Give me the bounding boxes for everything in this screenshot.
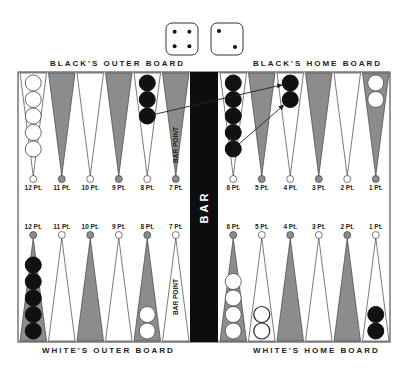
point-tip-marker	[172, 176, 179, 183]
white-checker	[254, 307, 270, 323]
point-tip-marker	[344, 176, 351, 183]
die-pip	[173, 30, 177, 34]
white-checker	[25, 92, 41, 108]
point-tip-marker	[287, 232, 294, 239]
point-label: 1 Pt.	[369, 184, 383, 191]
die-2	[211, 23, 243, 55]
point-tip-marker	[115, 232, 122, 239]
point-tip-marker	[344, 232, 351, 239]
die-pip	[187, 44, 191, 48]
point-tip-marker	[258, 176, 265, 183]
black-checker	[139, 75, 155, 91]
point-tip-marker	[230, 176, 237, 183]
white-checker	[368, 75, 384, 91]
point-tip-marker	[258, 232, 265, 239]
point-label: 7 Pt.	[169, 184, 183, 191]
point-tip-marker	[87, 232, 94, 239]
black-checker	[225, 75, 241, 91]
point-tip-marker	[144, 232, 151, 239]
point-label: 10 Pt.	[82, 223, 100, 230]
point-tip-marker	[144, 176, 151, 183]
point-label: 11 Pt.	[53, 184, 70, 191]
point-label: 9 Pt.	[112, 184, 126, 191]
point-tip-marker	[87, 176, 94, 183]
black-checker	[225, 125, 241, 141]
white-checker	[225, 323, 241, 339]
black-checker	[368, 307, 384, 323]
black-outer-board-label: BLACK'S OUTER BOARD	[50, 59, 185, 68]
black-checker	[25, 290, 41, 306]
point-tip-marker	[58, 176, 65, 183]
point-label: 12 Pt.	[25, 223, 43, 230]
black-checker	[139, 92, 155, 108]
point-label: 10 Pt.	[82, 184, 100, 191]
white-home-board-label: WHITE'S HOME BOARD	[253, 346, 380, 355]
white-checker	[225, 290, 241, 306]
die-face	[166, 23, 198, 55]
black-checker	[225, 92, 241, 108]
black-checker	[25, 274, 41, 290]
white-checker	[254, 323, 270, 339]
die-pip	[187, 30, 191, 34]
die-face	[211, 23, 243, 55]
black-home-board-label: BLACK'S HOME BOARD	[253, 59, 382, 68]
black-checker	[25, 323, 41, 339]
black-checker	[282, 75, 298, 91]
die-pip	[173, 44, 177, 48]
black-checker	[368, 323, 384, 339]
bar-point-label-bottom: BAR POINT	[172, 279, 179, 315]
point-label: 2 Pt.	[340, 223, 354, 230]
point-tip-marker	[230, 232, 237, 239]
point-label: 2 Pt.	[340, 184, 354, 191]
die-1	[166, 23, 198, 55]
white-checker	[25, 141, 41, 157]
black-checker	[225, 108, 241, 124]
point-tip-marker	[30, 176, 37, 183]
point-label: 4 Pt.	[283, 223, 297, 230]
point-tip-marker	[172, 232, 179, 239]
point-tip-marker	[372, 232, 379, 239]
white-checker	[25, 125, 41, 141]
white-checker	[225, 274, 241, 290]
point-label: 7 Pt.	[169, 223, 183, 230]
point-label: 3 Pt.	[312, 184, 326, 191]
point-tip-marker	[58, 232, 65, 239]
die-pip	[233, 45, 237, 49]
bar-point-label-top: BAR POINT	[172, 127, 179, 163]
white-checker	[25, 108, 41, 124]
point-tip-marker	[287, 176, 294, 183]
point-label: 4 Pt.	[283, 184, 297, 191]
black-checker	[282, 92, 298, 108]
white-checker	[25, 75, 41, 91]
point-tip-marker	[315, 176, 322, 183]
black-checker	[25, 257, 41, 273]
point-label: 1 Pt.	[369, 223, 383, 230]
point-label: 9 Pt.	[112, 223, 126, 230]
bar-label: BAR	[198, 191, 210, 224]
point-label: 11 Pt.	[53, 223, 70, 230]
white-checker	[225, 307, 241, 323]
point-label: 8 Pt.	[140, 184, 154, 191]
point-label: 5 Pt.	[255, 184, 269, 191]
point-label: 5 Pt.	[255, 223, 269, 230]
point-label: 6 Pt.	[226, 223, 240, 230]
point-tip-marker	[115, 176, 122, 183]
point-label: 12 Pt.	[25, 184, 43, 191]
point-tip-marker	[372, 176, 379, 183]
backgammon-diagram: BLACK'S OUTER BOARD BLACK'S HOME BOARD W…	[0, 0, 406, 370]
white-checker	[368, 92, 384, 108]
white-checker	[139, 307, 155, 323]
white-checker	[139, 323, 155, 339]
die-pip	[217, 29, 221, 33]
point-tip-marker	[315, 232, 322, 239]
black-checker	[25, 307, 41, 323]
point-label: 8 Pt.	[140, 223, 154, 230]
point-tip-marker	[30, 232, 37, 239]
point-label: 3 Pt.	[312, 223, 326, 230]
white-outer-board-label: WHITE'S OUTER BOARD	[42, 346, 175, 355]
point-label: 6 Pt.	[226, 184, 240, 191]
